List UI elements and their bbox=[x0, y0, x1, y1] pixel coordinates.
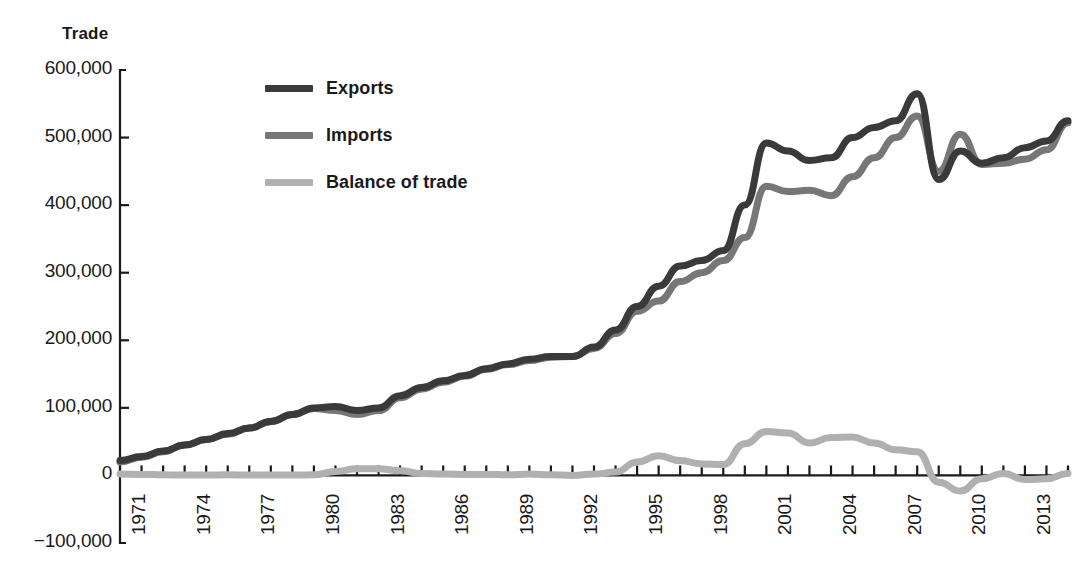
series-line-balance-of-trade bbox=[120, 432, 1068, 492]
series-lines bbox=[120, 94, 1068, 491]
trade-chart: Trade 600,000500,000400,000300,000200,00… bbox=[0, 0, 1085, 580]
plot-area bbox=[0, 0, 1085, 580]
y-axis-ticks bbox=[120, 138, 129, 476]
series-line-imports bbox=[120, 116, 1068, 462]
